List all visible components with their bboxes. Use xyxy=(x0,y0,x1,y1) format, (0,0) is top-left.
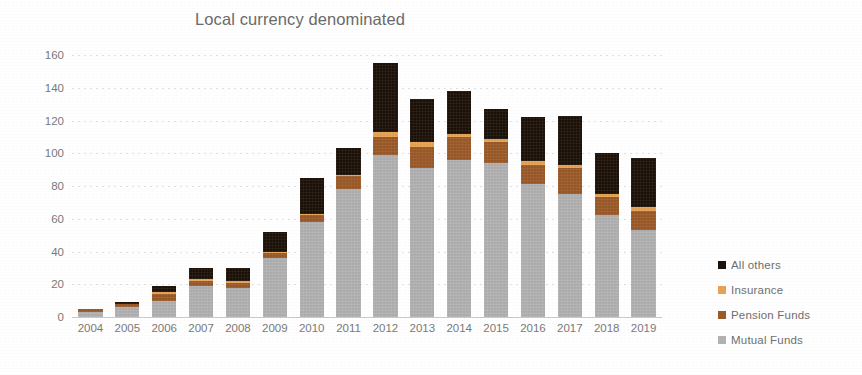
x-axis-tick-2004: 2004 xyxy=(78,322,104,334)
bar-segment-mutual-funds-2010 xyxy=(300,222,324,317)
bar-group-2005[interactable] xyxy=(115,55,139,317)
bar-stack-2018 xyxy=(595,153,619,317)
bar-segment-all-others-2019 xyxy=(631,158,655,207)
legend-label: Pension Funds xyxy=(731,309,810,321)
bar-segment-mutual-funds-2013 xyxy=(410,168,434,317)
bar-segment-pension-funds-2009 xyxy=(263,253,287,258)
bar-segment-all-others-2007 xyxy=(189,268,213,279)
bar-group-2010[interactable] xyxy=(300,55,324,317)
x-axis-tick-2012: 2012 xyxy=(373,322,399,334)
x-axis-tick-2007: 2007 xyxy=(188,322,214,334)
bar-segment-all-others-2017 xyxy=(558,116,582,165)
bar-group-2017[interactable] xyxy=(558,55,582,317)
bar-stack-2013 xyxy=(410,99,434,317)
bar-segment-insurance-2011 xyxy=(336,175,360,177)
legend-swatch-icon-pension-funds xyxy=(718,311,726,319)
bar-segment-pension-funds-2019 xyxy=(631,211,655,231)
bar-segment-pension-funds-2012 xyxy=(373,137,397,155)
legend-swatch-icon-all-others xyxy=(718,261,726,269)
bar-stack-2017 xyxy=(558,116,582,317)
bar-group-2007[interactable] xyxy=(189,55,213,317)
bar-group-2009[interactable] xyxy=(263,55,287,317)
y-axis-tick-20: 20 xyxy=(51,278,64,290)
chart-title: Local currency denominated xyxy=(0,10,600,29)
bar-group-2004[interactable] xyxy=(78,55,102,317)
bar-stack-2010 xyxy=(300,178,324,317)
bar-segment-insurance-2018 xyxy=(595,194,619,197)
bar-segment-mutual-funds-2017 xyxy=(558,194,582,317)
legend-item-insurance[interactable]: Insurance xyxy=(718,277,858,302)
legend-label: All others xyxy=(731,259,781,271)
legend-label: Mutual Funds xyxy=(731,334,803,346)
legend-item-all-others[interactable]: All others xyxy=(718,252,858,277)
bar-segment-mutual-funds-2012 xyxy=(373,155,397,317)
bar-stack-2019 xyxy=(631,158,655,317)
plot-area xyxy=(72,55,662,317)
legend-swatch-icon-insurance xyxy=(718,286,726,294)
bar-stack-2009 xyxy=(263,232,287,317)
bar-stack-2007 xyxy=(189,268,213,317)
bar-segment-insurance-2009 xyxy=(263,252,287,254)
bar-segment-pension-funds-2004 xyxy=(78,309,102,312)
bar-group-2014[interactable] xyxy=(447,55,471,317)
bar-group-2019[interactable] xyxy=(631,55,655,317)
bar-group-2008[interactable] xyxy=(226,55,250,317)
x-axis-tick-2016: 2016 xyxy=(520,322,546,334)
bar-segment-all-others-2012 xyxy=(373,63,397,132)
bar-segment-mutual-funds-2014 xyxy=(447,160,471,317)
bar-segment-insurance-2006 xyxy=(152,292,176,294)
bar-stack-2008 xyxy=(226,268,250,317)
bar-segment-insurance-2012 xyxy=(373,132,397,137)
bar-segment-insurance-2019 xyxy=(631,207,655,210)
x-axis-tick-2017: 2017 xyxy=(557,322,583,334)
bar-segment-mutual-funds-2015 xyxy=(484,163,508,317)
bar-segment-all-others-2009 xyxy=(263,232,287,252)
bar-segment-pension-funds-2015 xyxy=(484,142,508,163)
bar-segment-all-others-2015 xyxy=(484,109,508,138)
bar-segment-insurance-2014 xyxy=(447,134,471,137)
bar-stack-2015 xyxy=(484,109,508,317)
bar-segment-all-others-2008 xyxy=(226,268,250,281)
bar-segment-pension-funds-2007 xyxy=(189,281,213,286)
bar-stack-2006 xyxy=(152,286,176,317)
bar-group-2011[interactable] xyxy=(336,55,360,317)
y-axis-tick-120: 120 xyxy=(45,115,64,127)
x-axis-tick-2006: 2006 xyxy=(151,322,177,334)
bar-segment-all-others-2005 xyxy=(115,302,139,304)
bar-group-2016[interactable] xyxy=(521,55,545,317)
y-axis-tick-100: 100 xyxy=(45,147,64,159)
y-axis-tick-80: 80 xyxy=(51,180,64,192)
bar-segment-pension-funds-2018 xyxy=(595,197,619,215)
x-axis-tick-2011: 2011 xyxy=(336,322,361,334)
bar-group-2006[interactable] xyxy=(152,55,176,317)
bar-segment-mutual-funds-2009 xyxy=(263,258,287,317)
legend-item-pension-funds[interactable]: Pension Funds xyxy=(718,302,858,327)
x-axis-line xyxy=(72,317,662,318)
bar-group-2012[interactable] xyxy=(373,55,397,317)
chart-legend: All othersInsurancePension FundsMutual F… xyxy=(718,252,858,352)
bar-stack-2012 xyxy=(373,63,397,317)
legend-item-mutual-funds[interactable]: Mutual Funds xyxy=(718,327,858,352)
bar-segment-pension-funds-2010 xyxy=(300,215,324,222)
bar-segment-mutual-funds-2007 xyxy=(189,286,213,317)
bar-segment-pension-funds-2008 xyxy=(226,283,250,288)
bar-segment-all-others-2016 xyxy=(521,117,545,161)
x-axis-tick-2014: 2014 xyxy=(446,322,472,334)
x-axis-tick-2010: 2010 xyxy=(299,322,325,334)
bar-group-2013[interactable] xyxy=(410,55,434,317)
chart-container: Local currency denominated 1601401201008… xyxy=(0,0,862,375)
bar-segment-insurance-2015 xyxy=(484,139,508,142)
bar-segment-pension-funds-2011 xyxy=(336,176,360,189)
bar-stack-2014 xyxy=(447,91,471,317)
bar-segment-insurance-2013 xyxy=(410,142,434,147)
legend-swatch-icon-mutual-funds xyxy=(718,336,726,344)
x-axis-tick-2008: 2008 xyxy=(225,322,251,334)
bar-group-2015[interactable] xyxy=(484,55,508,317)
x-axis-tick-2018: 2018 xyxy=(594,322,620,334)
y-axis-tick-60: 60 xyxy=(51,213,64,225)
y-axis-tick-40: 40 xyxy=(51,246,64,258)
x-axis-tick-2009: 2009 xyxy=(262,322,288,334)
bar-stack-2004 xyxy=(78,309,102,317)
bar-group-2018[interactable] xyxy=(595,55,619,317)
bar-segment-pension-funds-2006 xyxy=(152,294,176,301)
